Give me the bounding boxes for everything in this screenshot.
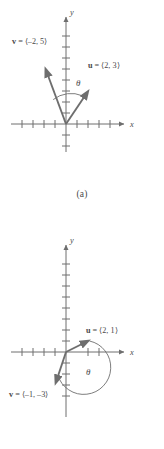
panel-b-theta-label: θ bbox=[86, 367, 91, 377]
figure-panel-b: x y θ u = ⟨2, 1⟩ v = ⟨–1, –3⟩ (b) bbox=[0, 225, 164, 449]
panel-a-label-v-value: = ⟨–2, 5⟩ bbox=[16, 37, 47, 46]
panel-a-caption: (a) bbox=[0, 189, 164, 199]
panel-b-label-v-value: = ⟨–1, –3⟩ bbox=[13, 390, 48, 399]
panel-a-label-v: v = ⟨–2, 5⟩ bbox=[12, 37, 47, 46]
panel-b-x-axis-label: x bbox=[129, 348, 134, 357]
panel-a-label-u-value: = ⟨2, 3⟩ bbox=[93, 61, 120, 70]
panel-a-y-axis-label: y bbox=[69, 8, 74, 17]
panel-b-vector-v bbox=[57, 352, 67, 381]
panel-a-vector-v bbox=[47, 72, 67, 125]
panel-b-svg: x y θ u = ⟨2, 1⟩ v = ⟨–1, –3⟩ bbox=[0, 225, 164, 449]
panel-b-label-u-value: = ⟨2, 1⟩ bbox=[91, 326, 118, 335]
panel-b-vector-u bbox=[66, 342, 86, 352]
panel-b-canvas: x y θ u = ⟨2, 1⟩ v = ⟨–1, –3⟩ bbox=[0, 225, 164, 449]
panel-a-label-u: u = ⟨2, 3⟩ bbox=[88, 61, 120, 70]
panel-b-label-v: v = ⟨–1, –3⟩ bbox=[9, 390, 48, 399]
panel-b-label-u: u = ⟨2, 1⟩ bbox=[86, 326, 118, 335]
panel-a-theta-label: θ bbox=[76, 78, 81, 88]
panel-a-vector-u bbox=[66, 94, 87, 125]
panel-b-y-axis-label: y bbox=[69, 236, 74, 245]
figure-panel-a: x y θ v = ⟨–2, 5⟩ u = ⟨2, 3⟩ (a) bbox=[0, 0, 164, 225]
panel-a-x-axis-label: x bbox=[129, 120, 134, 129]
